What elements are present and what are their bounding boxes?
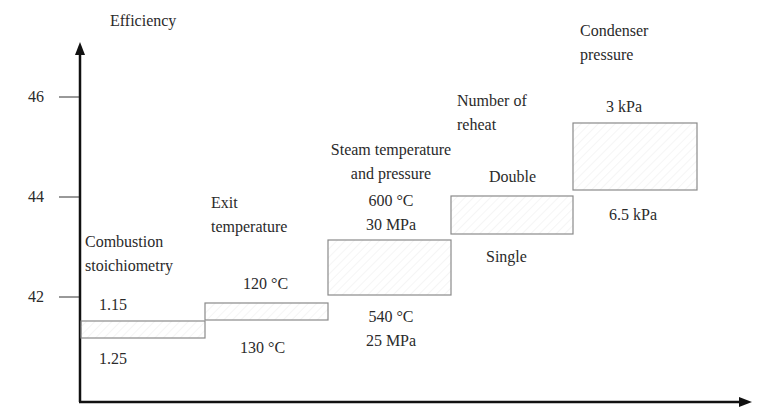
y-tick-46: 46 (28, 88, 44, 106)
condenser-title-line2: pressure (580, 44, 633, 66)
condenser-upper-value: 3 kPa (606, 96, 642, 118)
steam-upper-temp: 600 °C (306, 190, 476, 212)
steam-title-line1: Steam temperature (306, 139, 476, 161)
condenser-lower-value: 6.5 kPa (609, 204, 657, 226)
y-axis-arrow-icon (75, 42, 85, 55)
combustion-title-line1: Combustion (85, 231, 163, 253)
steam-title-line2: and pressure (306, 163, 476, 185)
condenser-box (573, 123, 697, 190)
y-tick-44: 44 (28, 188, 44, 206)
steam-box (328, 240, 451, 295)
exit-lower-value: 130 °C (240, 337, 285, 359)
y-axis-label: Efficiency (110, 10, 176, 32)
reheat-title-line1: Number of (457, 90, 527, 112)
condenser-title-line1: Condenser (580, 20, 648, 42)
y-axis (59, 42, 85, 402)
combustion-upper-value: 1.15 (99, 294, 127, 316)
exit-title-line2: temperature (211, 216, 287, 238)
combustion-box (81, 321, 205, 338)
combustion-title-line2: stoichiometry (85, 255, 173, 277)
combustion-lower-value: 1.25 (99, 348, 127, 370)
reheat-title-line2: reheat (457, 114, 496, 136)
steam-upper-pressure: 30 MPa (306, 214, 476, 236)
x-axis-arrow-icon (739, 397, 752, 407)
x-axis (79, 397, 752, 407)
reheat-lower-value: Single (486, 246, 527, 268)
steam-lower-temp: 540 °C (306, 306, 476, 328)
exit-title-line1: Exit (211, 192, 238, 214)
reheat-upper-value: Double (489, 166, 536, 188)
exit-upper-value: 120 °C (243, 273, 288, 295)
y-tick-42: 42 (28, 288, 44, 306)
steam-lower-pressure: 25 MPa (306, 330, 476, 352)
